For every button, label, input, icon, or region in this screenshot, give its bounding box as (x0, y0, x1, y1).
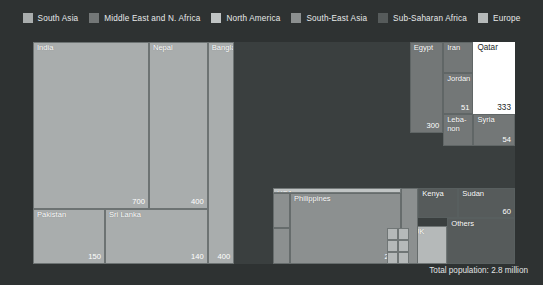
treemap-cell-value: 300 (426, 122, 439, 131)
treemap-cell-label: Leba- non (447, 116, 470, 133)
treemap-cell-label: Nepal (153, 44, 205, 53)
treemap-cell[interactable]: Qatar333 (473, 42, 515, 114)
legend-swatch-icon (291, 13, 301, 23)
treemap-cell-label: Pakistan (37, 211, 102, 220)
treemap-cell[interactable]: India700 (33, 42, 149, 209)
treemap-cell-value: 700 (132, 198, 145, 207)
legend-item-label: South-East Asia (306, 14, 367, 23)
treemap-cell-small[interactable] (398, 240, 409, 252)
treemap-cell-value: 150 (88, 253, 101, 262)
treemap-chart-page: South AsiaMiddle East and N. AfricaNorth… (0, 0, 543, 285)
treemap-cell-small[interactable] (273, 193, 290, 228)
treemap-cell-small[interactable] (387, 240, 398, 252)
treemap-cell[interactable]: Jordan51 (443, 73, 473, 115)
treemap-cell-label: Philippines (294, 195, 398, 204)
legend-item[interactable]: South Asia (23, 13, 79, 23)
treemap-cell[interactable]: Philippines236 (290, 193, 401, 264)
treemap-cell-label: Sudan (462, 190, 512, 199)
legend-swatch-icon (478, 13, 488, 23)
treemap-cell-label: Bangladesh (212, 44, 231, 53)
legend-item[interactable]: Europe (478, 13, 520, 23)
treemap-cell-label: UK (414, 228, 445, 237)
treemap-cell[interactable]: Sri Lanka140 (105, 209, 208, 264)
legend-item-label: Middle East and N. Africa (104, 14, 200, 23)
treemap-cell[interactable]: Bangladesh400 (208, 42, 234, 264)
treemap-cell[interactable]: Pakistan150 (33, 209, 105, 264)
treemap-cell-small[interactable] (273, 228, 290, 264)
legend-item-label: Europe (493, 14, 520, 23)
treemap-cell[interactable]: Leba- non (443, 114, 473, 146)
treemap-cell-label: India (37, 44, 146, 53)
treemap-cell-label: Jordan (447, 75, 470, 84)
treemap-cell-value: 140 (191, 253, 204, 262)
treemap-group-middle-east: Egypt300IranJordan51Leba- nonQatar333Syr… (273, 42, 515, 188)
treemap-cell[interactable]: Others (447, 218, 515, 264)
treemap-cell-label: Others (451, 220, 512, 229)
treemap-cell-value: 51 (461, 104, 469, 113)
treemap-cell[interactable]: Egypt300 (410, 42, 443, 133)
treemap-cell[interactable]: Nepal400 (149, 42, 208, 209)
treemap-cell-small[interactable] (387, 252, 398, 264)
treemap-group-bottom: USAPhilippines236KenyaSudan60OthersUK (273, 188, 515, 264)
treemap-cell-label: Syria (477, 116, 512, 125)
treemap-cell[interactable]: Syria54 (473, 114, 515, 146)
treemap-cell-label: Qatar (477, 44, 512, 53)
treemap-cell[interactable]: Sudan60 (458, 188, 515, 218)
treemap-cell-label: Egypt (414, 44, 440, 53)
treemap-cell-small[interactable] (398, 228, 409, 240)
treemap-cell-value: 60 (503, 208, 511, 217)
legend-item[interactable]: Middle East and N. Africa (89, 13, 200, 23)
treemap-cell[interactable]: Kenya (418, 188, 458, 218)
chart-legend: South AsiaMiddle East and N. AfricaNorth… (0, 0, 543, 36)
treemap-cell-small[interactable] (398, 252, 409, 264)
legend-item[interactable]: North America (211, 13, 280, 23)
legend-item-label: North America (226, 14, 280, 23)
treemap-cell-small[interactable] (387, 228, 398, 240)
legend-item[interactable]: Sub-Saharan Africa (378, 13, 467, 23)
treemap-cell-value: 333 (497, 104, 511, 113)
legend-swatch-icon (23, 13, 33, 23)
treemap-cell-label: Iran (447, 44, 470, 53)
treemap-cell-value: 400 (191, 198, 204, 207)
legend-swatch-icon (211, 13, 221, 23)
legend-swatch-icon (378, 13, 388, 23)
treemap-plot-area: India700Nepal400Bangladesh400Pakistan150… (33, 42, 515, 264)
treemap-cell-value: 54 (503, 136, 511, 145)
legend-item-label: Sub-Saharan Africa (393, 14, 467, 23)
treemap-cell[interactable]: Iran (443, 42, 473, 73)
treemap-cell-label: Kenya (422, 190, 455, 199)
total-population-label: Total population: 2.8 million (0, 266, 528, 275)
treemap-cell-label: Sri Lanka (109, 211, 205, 220)
legend-item[interactable]: South-East Asia (291, 13, 367, 23)
legend-swatch-icon (89, 13, 99, 23)
legend-item-label: South Asia (38, 14, 79, 23)
treemap-cell-value: 400 (217, 253, 230, 262)
treemap-group-south-asia: India700Nepal400Bangladesh400Pakistan150… (33, 42, 273, 264)
